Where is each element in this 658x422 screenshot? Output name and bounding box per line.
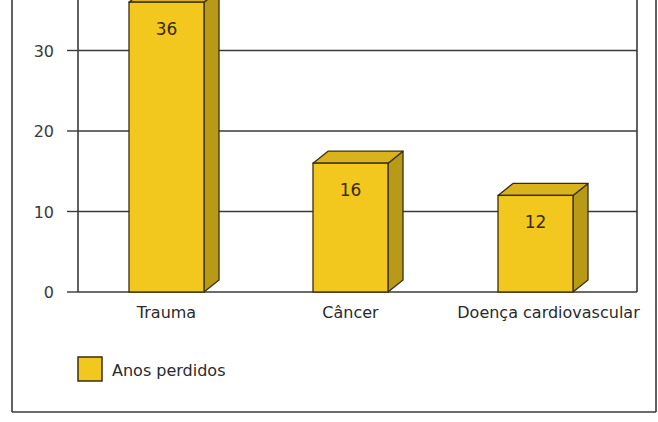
bar-side-face	[388, 151, 403, 292]
bars: 361612	[129, 0, 588, 292]
bar-top-face	[498, 183, 588, 195]
bar-chart: 361612 0102030 TraumaCâncerDoença cardio…	[0, 0, 658, 422]
bar-side-face	[204, 0, 219, 292]
bar-value-label: 16	[340, 180, 362, 200]
y-tick-label: 20	[34, 122, 54, 141]
bar-c-ncer: 16	[313, 151, 403, 292]
y-tick-label: 0	[44, 283, 54, 302]
bar-value-label: 12	[525, 212, 547, 232]
bar-value-label: 36	[156, 19, 178, 39]
bar-doen-a-cardiovascular: 12	[498, 183, 588, 292]
bar-top-face	[313, 151, 403, 163]
x-category-label: Doença cardiovascular	[457, 303, 640, 322]
y-tick-label: 30	[34, 42, 54, 61]
y-tick-label: 10	[34, 203, 54, 222]
bar-side-face	[573, 183, 588, 292]
legend-swatch	[78, 357, 102, 381]
x-category-labels: TraumaCâncerDoença cardiovascular	[136, 303, 640, 322]
y-tick-labels: 0102030	[34, 42, 54, 303]
legend-label: Anos perdidos	[112, 361, 225, 380]
x-category-label: Câncer	[322, 303, 379, 322]
bar-front-face	[129, 2, 204, 292]
legend: Anos perdidos	[78, 357, 225, 381]
bar-trauma: 36	[129, 0, 219, 292]
x-category-label: Trauma	[136, 303, 196, 322]
bar-front-face	[498, 195, 573, 292]
